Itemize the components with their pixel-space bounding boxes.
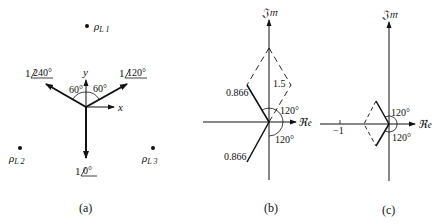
- label-phasor-120: 1 120°: [119, 67, 147, 79]
- caption-a: (a): [79, 201, 92, 215]
- angle-upper-b: 120°: [280, 105, 299, 116]
- tick-label-minus-one: −1: [333, 125, 344, 136]
- caption-b: (b): [264, 201, 278, 215]
- angle-lower-b: 120°: [275, 134, 294, 145]
- phasor-diagrams: ρL 1 ρL 2 ρL 3 y x 60° 60° 1 240° 1 120°: [0, 0, 441, 224]
- panel-c: 𝔍𝔪 ℜ𝔢 −1 120° 120° (c): [320, 8, 432, 217]
- phasor-lower-c: [376, 124, 389, 146]
- caption-c: (c): [382, 203, 395, 217]
- svg-text:0°: 0°: [83, 165, 92, 176]
- svg-text:1: 1: [75, 165, 81, 177]
- label-phasor-0: 1 0°: [75, 165, 97, 177]
- x-axis-label: x: [117, 101, 123, 113]
- angle-label-right: 60°: [93, 83, 107, 94]
- im-label-c: 𝔍𝔪: [381, 8, 398, 20]
- resultant-b: 1.5: [273, 78, 286, 89]
- charge-l1-dot: [85, 24, 89, 28]
- angle-lower-c: 120°: [392, 132, 411, 143]
- charge-l2-label: ρL 2: [8, 152, 25, 166]
- charge-l2-dot: [18, 146, 22, 150]
- figure-root: ρL 1 ρL 2 ρL 3 y x 60° 60° 1 240° 1 120°: [0, 0, 441, 224]
- mag-lower-b: 0.866: [224, 151, 247, 162]
- charge-l1-label: ρL 1: [93, 20, 110, 34]
- im-label-b: 𝔍𝔪: [261, 6, 278, 18]
- mag-upper-b: 0.866: [226, 87, 249, 98]
- phasor-upper-b: [247, 85, 269, 122]
- svg-text:240°: 240°: [33, 67, 52, 78]
- angle-label-left: 60°: [69, 84, 83, 95]
- re-label-b: ℜ𝔢: [298, 116, 312, 128]
- svg-text:120°: 120°: [127, 67, 146, 78]
- svg-text:1: 1: [119, 67, 125, 79]
- re-label-c: ℜ𝔢: [418, 118, 432, 130]
- panel-b: 𝔍𝔪 ℜ𝔢 0.866 0.866 1.5 120° 120° (b): [203, 6, 312, 215]
- svg-text:1: 1: [25, 67, 31, 79]
- panel-a: ρL 1 ρL 2 ρL 3 y x 60° 60° 1 240° 1 120°: [8, 20, 158, 215]
- label-phasor-240: 1 240°: [25, 67, 53, 79]
- phasor-lower-b: [247, 122, 269, 162]
- charge-l3-dot: [151, 146, 155, 150]
- charge-l3-label: ρL 3: [141, 152, 158, 166]
- phasor-upper-c: [376, 101, 389, 124]
- angle-upper-c: 120°: [391, 107, 410, 118]
- y-axis-label: y: [82, 66, 88, 78]
